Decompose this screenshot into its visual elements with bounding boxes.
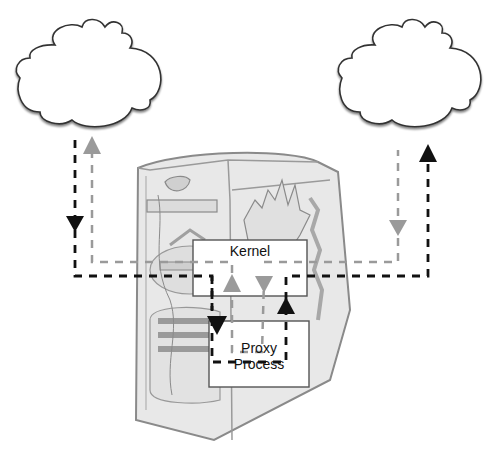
arrow-down-black-left-icon <box>66 216 84 232</box>
proxy-label-line2: Process <box>209 356 309 373</box>
arrow-down-gray-right-icon <box>389 220 407 236</box>
network-proxy-diagram: Kernel Proxy Process <box>0 0 504 456</box>
diagram-canvas <box>0 0 504 456</box>
cloud-right-icon <box>338 19 480 126</box>
kernel-label: Kernel <box>193 243 307 260</box>
arrow-up-gray-left-icon <box>83 136 101 154</box>
arrow-up-black-right-icon <box>419 144 437 162</box>
proxy-label-line1: Proxy <box>209 340 309 357</box>
cloud-left-icon <box>16 19 160 126</box>
